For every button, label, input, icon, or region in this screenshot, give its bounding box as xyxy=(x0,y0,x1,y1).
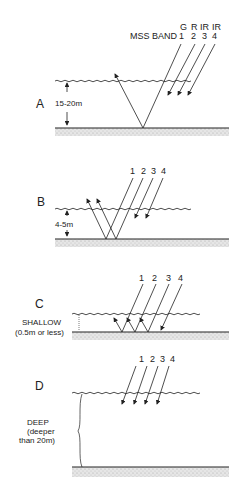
depth-brace-d xyxy=(78,394,82,467)
band-title: MSS BAND xyxy=(130,31,178,41)
panel-d: D DEEP (deeper than 20m) 1 2 3 4 xyxy=(19,354,229,477)
band-num-4: 4 xyxy=(212,31,217,41)
svg-text:1: 1 xyxy=(139,273,144,283)
sediment-a xyxy=(55,128,229,136)
svg-text:4: 4 xyxy=(178,273,183,283)
svg-text:DEEP: DEEP xyxy=(27,418,49,427)
panel-b-label: B xyxy=(37,195,45,209)
svg-text:(0.5m or less): (0.5m or less) xyxy=(15,328,64,337)
svg-text:1: 1 xyxy=(130,166,135,176)
svg-text:2: 2 xyxy=(141,166,146,176)
svg-text:than 20m): than 20m) xyxy=(19,436,55,445)
panel-c: C SHALLOW (0.5m or less) 1 2 3 4 xyxy=(15,273,229,340)
band-header: G R IR IR MSS BAND 1 2 3 4 xyxy=(130,22,222,41)
band-num-2: 2 xyxy=(191,31,196,41)
water-surface-a xyxy=(55,80,191,82)
band-num-1: 1 xyxy=(179,31,184,41)
svg-text:4: 4 xyxy=(170,354,175,364)
svg-text:SHALLOW: SHALLOW xyxy=(22,318,62,327)
panel-a: A 15-20m xyxy=(36,44,229,136)
svg-text:2: 2 xyxy=(150,354,155,364)
band-num-3: 3 xyxy=(202,31,207,41)
mss-band-water-penetration-diagram: G R IR IR MSS BAND 1 2 3 4 A 15-20m B 1 … xyxy=(0,0,238,499)
svg-text:3: 3 xyxy=(160,354,165,364)
panel-c-label: C xyxy=(35,297,44,311)
svg-text:2: 2 xyxy=(152,273,157,283)
panel-b: B 1 2 3 4 4-5m xyxy=(37,166,229,247)
depth-b: 4-5m xyxy=(55,220,74,229)
svg-text:(deeper: (deeper xyxy=(27,427,55,436)
panel-d-label: D xyxy=(35,379,44,393)
svg-text:4: 4 xyxy=(161,166,166,176)
svg-text:3: 3 xyxy=(151,166,156,176)
depth-a: 15-20m xyxy=(55,99,82,108)
svg-text:1: 1 xyxy=(139,354,144,364)
panel-a-label: A xyxy=(36,97,44,111)
svg-text:3: 3 xyxy=(166,273,171,283)
